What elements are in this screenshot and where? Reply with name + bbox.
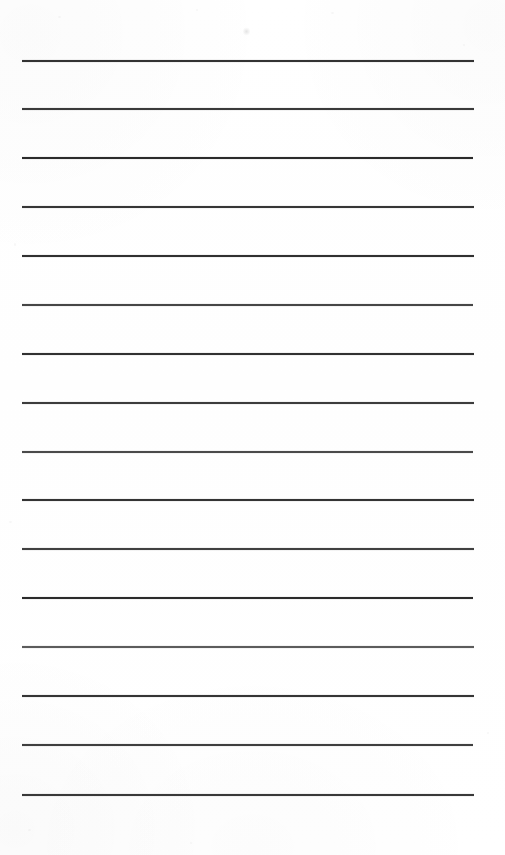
scan-dust-speck (196, 9, 198, 11)
ruled-line (22, 597, 473, 599)
scan-dust-speck (331, 12, 334, 14)
paper-texture (0, 0, 505, 855)
ruled-line (22, 499, 474, 501)
ruled-line (22, 548, 474, 550)
ruled-line (22, 108, 474, 110)
ruled-line (22, 304, 473, 305)
scan-dust-speck (9, 521, 12, 523)
ruled-line (22, 255, 474, 257)
ruled-line (22, 744, 473, 746)
ruled-line (22, 695, 474, 697)
ruled-line (22, 646, 474, 647)
ruled-line (22, 157, 473, 159)
ruled-line (22, 206, 474, 208)
scanned-page (0, 0, 505, 855)
scan-speck (243, 27, 250, 36)
scan-dust-speck (58, 16, 61, 18)
ruled-line (22, 794, 474, 796)
scan-dust-speck (463, 44, 465, 46)
ruled-line (22, 451, 473, 452)
ruled-line (22, 60, 474, 62)
scan-dust-speck (14, 243, 16, 246)
scan-dust-speck (190, 842, 192, 844)
scan-dust-speck (487, 732, 489, 734)
ruled-line (22, 353, 474, 355)
ruled-line (22, 402, 474, 404)
scan-dust-speck (28, 829, 31, 831)
